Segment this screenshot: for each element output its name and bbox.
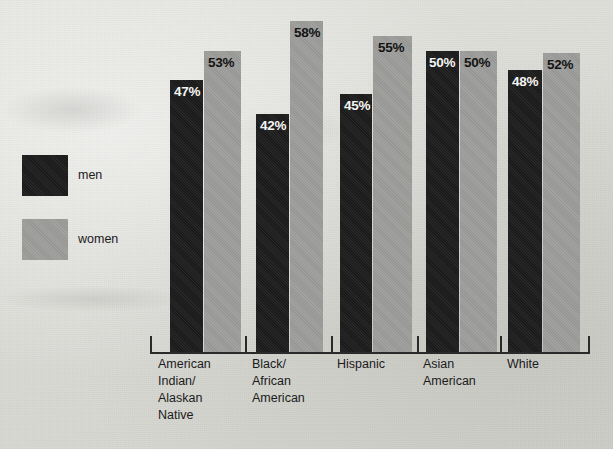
category-line: White [507, 356, 539, 373]
bar-value-women-asian-american: 50% [464, 56, 490, 70]
plot-area: 47% 53% 42% 58% 45% 55% 50% 50% 48% 52% [0, 0, 613, 449]
category-line: Indian/ [158, 373, 211, 390]
bar-women-black-african [290, 21, 323, 352]
axis-tick-group-end [588, 336, 590, 354]
bar-men-hispanic [340, 94, 372, 352]
bar-men-american-indian [170, 80, 203, 352]
chart-page: men women 47% 53% 42% 58% 45% 55% 50% 50… [0, 0, 613, 449]
bar-value-men-hispanic: 45% [344, 99, 370, 113]
category-label-american-indian: American Indian/ Alaskan Native [158, 356, 211, 424]
bar-value-women-white: 52% [547, 58, 573, 72]
axis-tick-group-2-3 [331, 336, 333, 354]
axis-tick-group-4-5 [500, 336, 502, 354]
axis-tick-group-3-4 [417, 336, 419, 354]
bar-value-men-asian-american: 50% [429, 56, 455, 70]
axis-tick-group-start [150, 336, 152, 354]
bar-men-white [508, 70, 542, 352]
category-line: Asian [423, 356, 476, 373]
bar-women-american-indian [204, 51, 241, 352]
category-line: Native [158, 407, 211, 424]
bar-value-men-black-african: 42% [260, 119, 286, 133]
category-line: African [252, 373, 305, 390]
category-label-black-african: Black/ African American [252, 356, 305, 407]
bar-value-men-white: 48% [512, 75, 538, 89]
category-label-asian-american: Asian American [423, 356, 476, 390]
category-line: Alaskan [158, 390, 211, 407]
bar-men-asian-american [426, 51, 459, 352]
category-line: American [158, 356, 211, 373]
bar-value-women-black-african: 58% [294, 26, 320, 40]
category-label-white: White [507, 356, 539, 373]
bar-women-white [543, 53, 580, 352]
category-line: American [252, 390, 305, 407]
bar-value-women-hispanic: 55% [378, 41, 404, 55]
bar-value-women-american-indian: 53% [208, 56, 234, 70]
bar-men-black-african [256, 114, 289, 352]
bar-value-men-american-indian: 47% [174, 85, 200, 99]
category-line: Hispanic [337, 356, 385, 373]
category-label-hispanic: Hispanic [337, 356, 385, 373]
x-axis-line [150, 352, 590, 354]
axis-tick-group-1-2 [245, 336, 247, 354]
category-line: American [423, 373, 476, 390]
bar-women-hispanic [373, 36, 412, 352]
bar-women-asian-american [460, 51, 497, 352]
category-line: Black/ [252, 356, 305, 373]
